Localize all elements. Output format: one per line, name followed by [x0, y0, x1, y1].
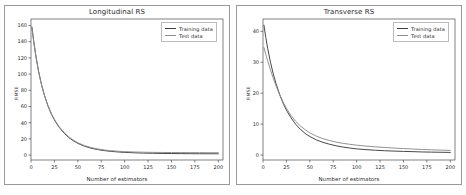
- x-tick-label: 125: [370, 164, 390, 170]
- x-tick-label: 125: [138, 164, 158, 170]
- x-tick-label: 100: [347, 164, 367, 170]
- x-tick-label: 25: [44, 164, 64, 170]
- y-tick-label: 30: [241, 59, 259, 65]
- x-tick-label: 200: [440, 164, 460, 170]
- plot-area-left: Longitudinal RS RMSE Number of estimator…: [5, 6, 229, 184]
- y-tick-label: 40: [9, 120, 27, 126]
- y-tick-label: 100: [9, 71, 27, 77]
- x-tick-label: 0: [21, 164, 41, 170]
- legend-left: Training data Test data: [161, 22, 217, 42]
- legend-label-training: Training data: [179, 26, 213, 32]
- x-tick-label: 100: [115, 164, 135, 170]
- x-tick-label: 50: [68, 164, 88, 170]
- legend-entry-training: Training data: [165, 25, 213, 32]
- y-tick-label: 160: [9, 22, 27, 28]
- legend-label-training: Training data: [411, 26, 445, 32]
- y-tick-label: 0: [241, 152, 259, 158]
- y-tick-label: 0: [9, 152, 27, 158]
- y-tick-label: 120: [9, 55, 27, 61]
- x-tick-label: 200: [208, 164, 228, 170]
- plot-area-right: Transverse RS RMSE Number of estimators …: [237, 6, 461, 184]
- y-tick-label: 40: [241, 28, 259, 34]
- x-tick-label: 150: [161, 164, 181, 170]
- legend-label-test: Test data: [411, 33, 435, 39]
- y-tick-label: 20: [241, 90, 259, 96]
- x-tick-label: 50: [300, 164, 320, 170]
- legend-entry-training: Training data: [397, 25, 445, 32]
- y-tick-label: 80: [9, 87, 27, 93]
- y-tick-label: 10: [241, 121, 259, 127]
- legend-swatch-training-icon: [165, 28, 176, 29]
- x-tick-label: 150: [393, 164, 413, 170]
- y-tick-label: 20: [9, 136, 27, 142]
- legend-entry-test: Test data: [165, 32, 213, 39]
- y-tick-label: 140: [9, 38, 27, 44]
- x-tick-label: 25: [276, 164, 296, 170]
- figure-row: Longitudinal RS RMSE Number of estimator…: [0, 0, 466, 195]
- legend-label-test: Test data: [179, 33, 203, 39]
- x-tick-label: 175: [185, 164, 205, 170]
- legend-swatch-training-icon: [397, 28, 408, 29]
- figure-panel-transverse: Transverse RS RMSE Number of estimators …: [236, 5, 462, 185]
- legend-right: Training data Test data: [393, 22, 449, 42]
- legend-swatch-test-icon: [165, 35, 176, 36]
- x-tick-label: 0: [253, 164, 273, 170]
- x-tick-label: 175: [417, 164, 437, 170]
- legend-swatch-test-icon: [397, 35, 408, 36]
- x-tick-label: 75: [91, 164, 111, 170]
- legend-entry-test: Test data: [397, 32, 445, 39]
- y-tick-label: 60: [9, 103, 27, 109]
- figure-panel-longitudinal: Longitudinal RS RMSE Number of estimator…: [4, 5, 230, 185]
- x-tick-label: 75: [323, 164, 343, 170]
